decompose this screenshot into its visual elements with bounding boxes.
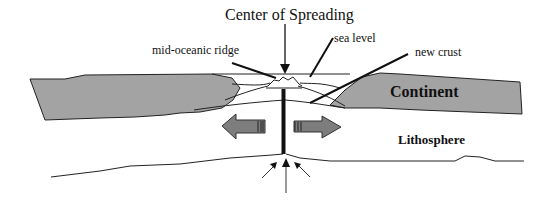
left-spreading-arrow (222, 114, 265, 139)
new-crust-label: new crust (415, 45, 461, 60)
lithosphere-bottom-line-left (51, 154, 283, 177)
lithosphere-bottom-line-right (286, 154, 524, 161)
crust-line-right-upper (300, 83, 340, 88)
crust-line-left-upper (232, 83, 270, 85)
sea-level-label: sea level (334, 31, 376, 46)
seafloor-spreading-diagram (0, 0, 547, 204)
continent-label: Continent (390, 83, 458, 101)
sea-level-pointer-line (310, 38, 333, 77)
center-arrow-head (280, 64, 290, 74)
ridge-label: mid-oceanic ridge (152, 43, 239, 58)
upwelling-arrows (262, 158, 310, 193)
central-dike (282, 89, 286, 154)
left-continent-shape (30, 74, 240, 120)
ridge-pointer-line (232, 63, 276, 78)
right-spreading-arrow (294, 116, 341, 138)
lithosphere-label: Lithosphere (398, 132, 465, 148)
diagram-title: Center of Spreading (225, 6, 354, 24)
mid-oceanic-ridge-shape (268, 77, 302, 86)
